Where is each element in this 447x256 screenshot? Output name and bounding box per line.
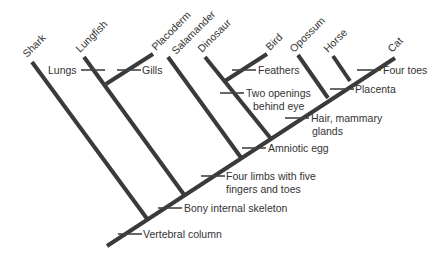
- taxon-bird: Bird: [263, 31, 285, 53]
- label-feathers: Feathers: [258, 64, 299, 76]
- taxon-cat: Cat: [385, 34, 405, 54]
- taxon-lungfish: Lungfish: [73, 18, 110, 55]
- label-placenta: Placenta: [355, 83, 396, 95]
- label-four-toes: Four toes: [383, 64, 427, 76]
- label-two-openings-1: Two openings: [246, 87, 311, 99]
- taxon-shark: Shark: [20, 31, 48, 59]
- branch-horse: [333, 56, 350, 81]
- label-amniotic: Amniotic egg: [268, 142, 329, 154]
- branch-lungfish: [84, 57, 185, 196]
- label-vertebral: Vertebral column: [143, 228, 222, 240]
- label-two-openings-2: behind eye: [253, 100, 305, 112]
- taxon-horse: Horse: [321, 26, 349, 54]
- label-lungs: Lungs: [48, 64, 77, 76]
- branch-shark: [32, 62, 148, 220]
- label-gills: Gills: [142, 64, 162, 76]
- label-bony: Bony internal skeleton: [184, 202, 287, 214]
- label-limbs-2: fingers and toes: [226, 183, 301, 195]
- cladogram: Shark Lungfish Placoderm Salamander Dino…: [0, 0, 447, 256]
- taxon-opossum: Opossum: [287, 14, 327, 54]
- label-hair-2: glands: [312, 125, 343, 137]
- label-hair-1: Hair, mammary: [311, 112, 383, 124]
- branch-salamander: [168, 57, 242, 159]
- label-limbs-1: Four limbs with five: [226, 170, 316, 182]
